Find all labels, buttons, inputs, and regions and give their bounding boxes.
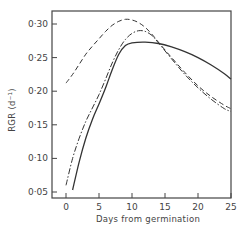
x-tick-label: 0	[63, 202, 69, 212]
y-tick-label: 0·25	[28, 53, 48, 63]
plot-border	[52, 11, 231, 198]
x-tick-label: 10	[126, 202, 138, 212]
x-axis-ticks: 0510152025	[63, 193, 237, 212]
series-solid-line	[73, 42, 231, 190]
y-axis-ticks: 0·050·100·150·200·250·30	[28, 19, 57, 197]
x-tick-label: 25	[225, 202, 236, 212]
x-tick-label: 5	[96, 202, 102, 212]
y-tick-label: 0·15	[28, 120, 48, 130]
y-tick-label: 0·20	[28, 86, 48, 96]
data-series	[66, 19, 231, 190]
y-axis-label: RGR (d⁻¹)	[7, 88, 17, 132]
y-tick-label: 0·05	[28, 187, 48, 197]
x-axis-label: Days from germination	[96, 214, 200, 224]
plot-frame	[52, 11, 231, 198]
y-tick-label: 0·10	[28, 153, 48, 163]
series-dash-dot-line	[66, 31, 231, 186]
rgr-line-chart: 0·050·100·150·200·250·30 0510152025 Days…	[0, 0, 246, 231]
y-tick-label: 0·30	[28, 19, 48, 29]
x-tick-label: 15	[159, 202, 170, 212]
x-tick-label: 20	[192, 202, 204, 212]
